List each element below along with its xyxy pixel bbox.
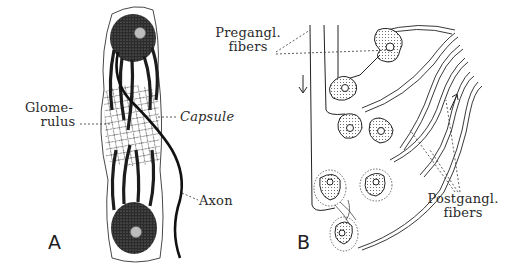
- label-postgangl-line1: Postgangl.: [420, 192, 506, 206]
- label-pregangl-line2: fibers: [212, 40, 284, 54]
- pregangl-fiber-mid: [324, 25, 345, 115]
- panel-a-drawing: [80, 7, 198, 262]
- label-glomerulus: Glome- rulus: [16, 101, 82, 129]
- down-arrow-icon: [299, 75, 307, 93]
- label-glomerulus-line1: Glome-: [16, 101, 82, 115]
- label-pregangl-line1: Pregangl.: [212, 26, 284, 40]
- axon-leader: [182, 193, 198, 200]
- panel-label-b: B: [297, 232, 310, 252]
- label-axon: Axon: [199, 194, 233, 208]
- label-capsule: Capsule: [180, 110, 234, 124]
- pregangl-leader-2: [276, 50, 392, 54]
- label-postgangl-fibers: Postgangl. fibers: [420, 192, 506, 220]
- label-postgangl-line2: fibers: [420, 206, 506, 220]
- label-glomerulus-line2: rulus: [16, 115, 82, 129]
- panel-label-a: A: [48, 232, 61, 252]
- label-pregangl-fibers: Pregangl. fibers: [212, 26, 284, 54]
